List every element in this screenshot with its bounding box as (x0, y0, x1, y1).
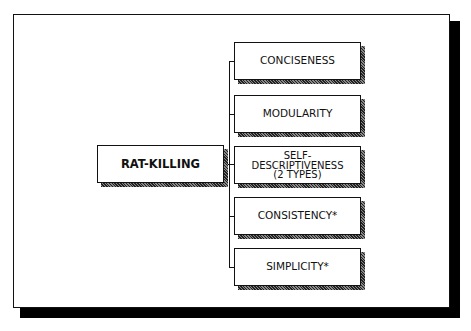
child-node-label: SIMPLICITY* (266, 261, 329, 272)
child-node-consistency: CONSISTENCY* (234, 197, 361, 235)
child-node-label: CONSISTENCY* (258, 210, 338, 221)
child-node-label: CONCISENESS (260, 55, 335, 66)
root-node-label: RAT-KILLING (121, 158, 200, 170)
child-node-conciseness: CONCISENESS (234, 42, 361, 80)
root-node-rat-killing: RAT-KILLING (97, 145, 224, 183)
child-node-label: MODULARITY (263, 108, 333, 119)
child-node-modularity: MODULARITY (234, 95, 361, 133)
child-node-simplicity: SIMPLICITY* (234, 248, 361, 286)
diagram-frame (13, 14, 450, 308)
child-node-label-line: (2 TYPES) (273, 170, 321, 180)
child-node-self-descriptiveness: SELF- DESCRIPTIVENESS (2 TYPES) (234, 146, 361, 184)
